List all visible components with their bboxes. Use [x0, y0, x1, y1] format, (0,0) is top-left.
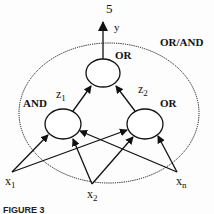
edge-z1 [73, 86, 91, 111]
z2-label: z2 [138, 83, 148, 98]
group-label-or-and: OR/AND [160, 37, 203, 48]
output-variable-y: y [114, 22, 120, 33]
output-number-label: 5 [106, 2, 113, 15]
input-xn-label: xn [176, 175, 187, 190]
node-left-label: AND [23, 98, 47, 109]
edge-xn-left [80, 131, 177, 172]
node-right-or [127, 109, 163, 139]
input-x1-label: x1 [5, 175, 16, 190]
z1-label: z1 [56, 88, 66, 103]
node-right-label: OR [160, 98, 177, 109]
node-top-label: OR [115, 50, 132, 61]
diagram-canvas: 5 y OR/AND OR AND OR z1 z2 x1 x2 xn FIGU… [0, 0, 214, 214]
node-left-and [45, 109, 81, 139]
input-x2-label: x2 [87, 188, 98, 203]
edge-x1-left [12, 135, 48, 172]
node-top-or [86, 59, 120, 87]
edge-z2 [116, 86, 135, 111]
figure-caption: FIGURE 3 [3, 206, 45, 214]
